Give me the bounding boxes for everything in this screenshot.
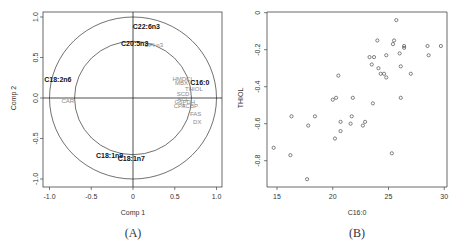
x-tick-label: 0.5 [170,193,180,200]
x-tick-label: 25 [385,193,393,200]
data-point [371,102,374,105]
variable-label-bold: C16:0 [190,79,209,86]
y-tick-label: 0.5 [32,53,39,63]
y-tick-label: -0.4 [254,81,261,93]
data-point [368,56,371,59]
data-point [339,130,342,133]
data-point [377,67,380,70]
y-tick-label: -0.2 [254,44,261,56]
data-point [372,56,375,59]
panel-b-scatter-plot: 152025300-0.2-0.4-0.6-0.8C16:0THIOL [237,11,448,216]
x-tick-label: 30 [440,193,448,200]
y-tick-label: -0.6 [254,118,261,130]
data-point [399,65,402,68]
variable-label-bold: C20:5n3 [121,40,148,47]
data-point [350,115,353,118]
panel-a-correlation-circle: -1.0-0.500.51.01.00.50.0-0.5-1.0Comp 1Co… [10,12,222,217]
data-point [272,146,275,149]
x-tick-label: -0.5 [85,193,97,200]
data-point [439,44,442,47]
x-axis-label: C16:0 [348,209,367,216]
panel-b-caption: (B) [349,226,365,240]
variable-label-bold: C22:6n3 [133,23,160,30]
data-point [390,152,393,155]
data-point [307,124,310,127]
x-tick-label: 15 [273,193,281,200]
variable-label: CAR [62,98,75,104]
data-point [391,43,394,46]
variable-label: ACBP [182,103,198,109]
y-tick-label: 1.0 [32,12,39,22]
data-point [376,39,379,42]
data-point [306,178,309,181]
figure: -1.0-0.500.51.01.00.50.0-0.5-1.0Comp 1Co… [0,0,462,247]
data-point [313,115,316,118]
data-point [392,39,395,42]
data-point [370,63,373,66]
data-point [339,120,342,123]
y-axis-label: THIOL [237,88,244,109]
variable-label-bold: C18:2n6 [44,76,71,83]
x-tick-label: 20 [329,193,337,200]
data-point [361,124,364,127]
data-point [427,54,430,57]
y-tick-label: -1.0 [32,173,39,185]
x-tick-label: -1.0 [43,193,55,200]
data-point [398,52,401,55]
plot-frame [267,12,447,187]
data-point [426,44,429,47]
data-point [333,137,336,140]
data-point [385,54,388,57]
data-point [363,120,366,123]
variable-label-bold: C18:1n7 [118,155,145,162]
variable-label: MBX [175,80,188,86]
data-point [290,115,293,118]
data-point [399,96,402,99]
y-tick-label: 0 [254,11,261,15]
data-point [379,72,382,75]
data-point [349,122,352,125]
data-point [331,98,334,101]
data-point [409,72,412,75]
data-point [385,76,388,79]
y-tick-label: -0.5 [32,132,39,144]
x-tick-label: 1.0 [212,193,222,200]
data-point [382,72,385,75]
panel-a-caption: (A) [125,226,142,240]
variable-label: FAS [190,111,201,117]
data-point [395,19,398,22]
data-point [351,96,354,99]
y-tick-label: -0.8 [254,155,261,167]
data-point [289,154,292,157]
data-point [334,96,337,99]
x-tick-label: 0 [131,193,135,200]
data-point [337,74,340,77]
x-axis-label: Comp 1 [121,209,146,217]
y-tick-label: 0.0 [32,93,39,103]
variable-label: DX [193,119,201,125]
y-axis-label: Comp 2 [10,86,18,111]
